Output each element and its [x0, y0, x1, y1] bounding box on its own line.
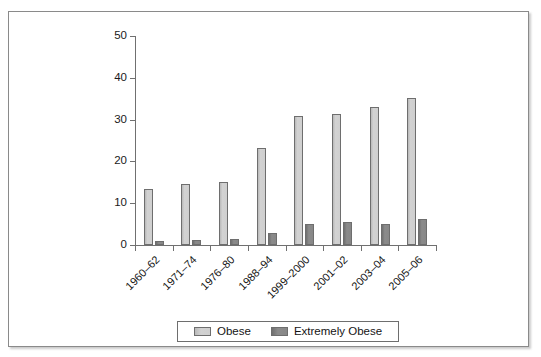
bar-obese [407, 98, 416, 245]
bar-extremely-obese [343, 222, 352, 245]
x-axis-tick [436, 246, 437, 251]
bar-obese [219, 182, 228, 245]
legend-swatch-obese [194, 327, 211, 336]
bar-obese [294, 116, 303, 245]
x-axis-tick [135, 246, 136, 251]
document-frame: 01020304050 1960–621971–741976–801988–94… [8, 11, 529, 347]
bar-extremely-obese [305, 224, 314, 245]
x-axis-tick [361, 246, 362, 251]
legend-label-obese: Obese [217, 326, 251, 338]
bar-extremely-obese [192, 240, 201, 245]
bar-extremely-obese [268, 233, 277, 245]
legend-label-extremely-obese: Extremely Obese [294, 326, 382, 338]
x-axis-tick [323, 246, 324, 251]
legend-entry-extremely-obese: Extremely Obese [265, 326, 388, 338]
bar-obese [332, 114, 341, 245]
legend-entry-obese: Obese [188, 326, 257, 338]
x-axis-tick [210, 246, 211, 251]
x-axis-tick [173, 246, 174, 251]
bar-extremely-obese [155, 241, 164, 245]
y-axis-tick-label: 40 [87, 72, 127, 84]
x-axis-tick [248, 246, 249, 251]
bar-obese [181, 184, 190, 245]
y-axis-tick-label: 0 [87, 239, 127, 251]
bar-extremely-obese [418, 219, 427, 245]
y-axis-tick-label: 10 [87, 197, 127, 209]
plot-area [135, 36, 436, 245]
chart-legend: Obese Extremely Obese [177, 321, 399, 342]
x-axis-tick [398, 246, 399, 251]
bar-extremely-obese [381, 224, 390, 245]
bar-chart: 01020304050 1960–621971–741976–801988–94… [9, 12, 530, 348]
y-axis-tick-label: 50 [87, 30, 127, 42]
x-axis-tick [286, 246, 287, 251]
bar-extremely-obese [230, 239, 239, 245]
bar-obese [370, 107, 379, 245]
bar-obese [144, 189, 153, 245]
y-axis-tick-label: 30 [87, 114, 127, 126]
legend-swatch-extremely-obese [271, 327, 288, 336]
bar-obese [257, 148, 266, 245]
y-axis-tick-label: 20 [87, 155, 127, 167]
